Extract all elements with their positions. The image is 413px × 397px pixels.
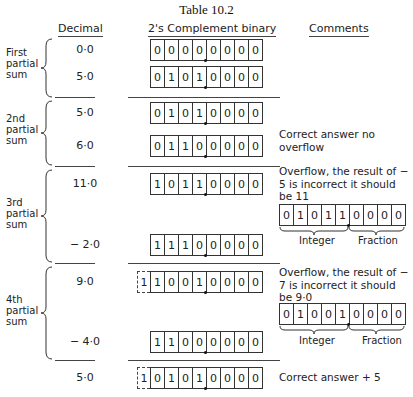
binary-register: 01010000 — [150, 66, 263, 88]
binary-register: 10110000 — [150, 173, 263, 195]
comment-overflow-3rd: Overflow, the result of − 5 is incorrect… — [279, 165, 411, 203]
binary-register: 01010000 — [150, 367, 263, 389]
header-comments: Comments — [309, 22, 369, 35]
decimal-value: 11·0 — [55, 177, 115, 190]
binary-point — [204, 254, 207, 257]
binary-register: 11100000 — [150, 234, 263, 256]
binary-point — [204, 193, 207, 196]
comment-overflow-4th: Overflow, the result of − 7 is incorrect… — [279, 266, 411, 304]
binary-register: 00000000 — [150, 39, 263, 61]
binary-point — [204, 122, 207, 125]
decimal-value: 5·0 — [55, 106, 115, 119]
comment-no-overflow: Correct answer no overflow — [279, 128, 411, 153]
group-label-2: 2ndpartialsum — [6, 113, 38, 146]
integer-label: Integer — [299, 235, 335, 246]
carry-bit: 1 — [137, 271, 150, 293]
sum-rule — [128, 263, 280, 264]
corrected-register: 010110000 — [279, 204, 406, 226]
brace-icon — [40, 100, 54, 166]
decimal-value: − 2·0 — [55, 238, 115, 251]
header-decimal: Decimal — [58, 22, 103, 35]
group-label-4: 4thpartialsum — [6, 294, 38, 327]
binary-point — [204, 291, 207, 294]
sum-rule — [128, 360, 280, 361]
brace-icon — [40, 266, 54, 360]
comment-correct-final: Correct answer + 5 — [279, 371, 411, 384]
sum-rule — [128, 97, 280, 98]
decimal-value: 5·0 — [55, 371, 115, 384]
sum-rule — [55, 97, 95, 98]
binary-point — [204, 86, 207, 89]
binary-register: 01010000 — [150, 102, 263, 124]
decimal-value: 6·0 — [55, 139, 115, 152]
brace-icon — [40, 169, 54, 263]
fraction-label: Fraction — [362, 335, 402, 346]
decimal-value: 5·0 — [55, 70, 115, 83]
brace-icon — [279, 325, 406, 335]
binary-point — [204, 155, 207, 158]
header-binary: 2's Complement binary — [148, 22, 276, 35]
binary-point — [204, 387, 207, 390]
decimal-value: 9·0 — [55, 275, 115, 288]
table-title: Table 10.2 — [0, 2, 413, 18]
binary-point — [204, 59, 207, 62]
binary-register: 10010000 — [150, 271, 263, 293]
sum-rule — [128, 166, 280, 167]
carry-bit: 1 — [137, 367, 150, 389]
group-label-3: 3rdpartialsum — [6, 197, 38, 230]
sum-rule — [55, 360, 95, 361]
decimal-value: 0·0 — [55, 43, 115, 56]
corrected-register: 010010000 — [279, 303, 406, 325]
binary-register: 01100000 — [150, 135, 263, 157]
fraction-label: Fraction — [358, 235, 398, 246]
integer-label: Integer — [299, 335, 335, 346]
brace-icon — [40, 38, 54, 98]
group-label-1: Firstpartialsum — [6, 47, 38, 80]
decimal-value: − 4·0 — [55, 335, 115, 348]
sum-rule — [55, 166, 95, 167]
binary-point — [204, 351, 207, 354]
sum-rule — [55, 263, 95, 264]
binary-register: 11000000 — [150, 331, 263, 353]
